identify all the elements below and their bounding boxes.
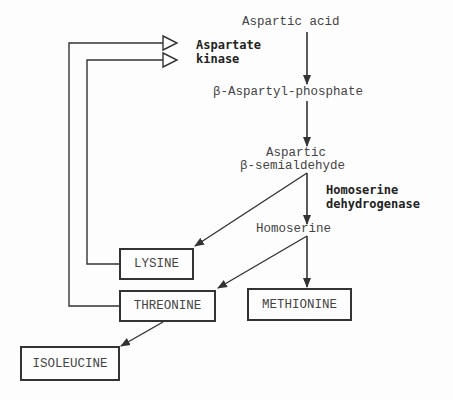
- label-aspartyl-phosphate: β-Aspartyl-phosphate: [213, 85, 363, 99]
- label-semialdehyde-1: Aspartic: [266, 146, 326, 160]
- feedback-lysine: [87, 60, 163, 264]
- inhibition-triangle-icon: [163, 53, 177, 67]
- enzyme-aspartate-kinase-2: kinase: [196, 52, 239, 66]
- inhibition-triangle-icon: [163, 36, 177, 50]
- arrow-threonine-to-isoleucine: [121, 322, 163, 346]
- label-homoserine: Homoserine: [256, 222, 331, 236]
- pathway-diagram: Aspartic acid β-Aspartyl-phosphate Aspar…: [0, 0, 453, 400]
- enzyme-aspartate-kinase-1: Aspartate: [196, 38, 261, 52]
- box-lysine: LYSINE: [119, 248, 194, 280]
- enzyme-homoserine-dh-2: dehydrogenase: [326, 197, 420, 211]
- box-threonine: THREONINE: [119, 290, 216, 322]
- box-isoleucine: ISOLEUCINE: [20, 346, 120, 381]
- arrow-homoserine-to-threonine: [218, 236, 307, 288]
- enzyme-homoserine-dh-1: Homoserine: [326, 183, 398, 197]
- label-semialdehyde-2: β-semialdehyde: [240, 159, 345, 173]
- label-aspartic-acid: Aspartic acid: [242, 15, 340, 29]
- box-methionine: METHIONINE: [247, 288, 352, 321]
